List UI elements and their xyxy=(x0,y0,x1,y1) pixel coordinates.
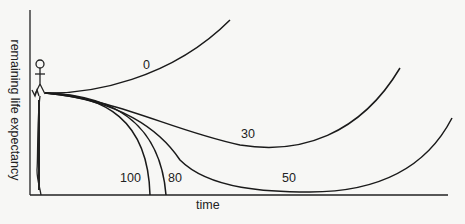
curve-label-100: 100 xyxy=(120,171,141,185)
x-axis-label: time xyxy=(196,198,220,212)
life-expectancy-chart: remaining life expectancy time 0 30 50 8… xyxy=(0,0,465,224)
curve-80 xyxy=(45,93,166,195)
person-icon xyxy=(32,60,45,195)
curve-label-30: 30 xyxy=(241,127,255,141)
curve-label-50: 50 xyxy=(282,171,296,185)
curve-30 xyxy=(45,68,400,147)
curve-label-80: 80 xyxy=(168,171,182,185)
y-axis-label: remaining life expectancy xyxy=(4,30,26,190)
curve-0 xyxy=(45,20,230,93)
chart-canvas xyxy=(0,0,465,224)
curve-label-0: 0 xyxy=(143,58,150,72)
y-axis-label-text: remaining life expectancy xyxy=(8,39,22,180)
